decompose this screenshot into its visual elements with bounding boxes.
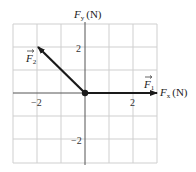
x-axis-label: Fx(N) [159, 86, 188, 100]
x-tick-2: 2 [130, 97, 135, 108]
origin-dot [82, 90, 88, 96]
y-axis-label: Fy(N) [73, 8, 102, 22]
f2-label: F2 [25, 50, 37, 67]
x-tick-neg2: −2 [31, 97, 42, 108]
force-diagram: Fy(N) Fx(N) −2 2 2 −2 F1 F2 [0, 0, 196, 172]
y-tick-neg2: −2 [71, 135, 82, 146]
svg-text:F2: F2 [25, 52, 37, 66]
svg-text:F1: F1 [143, 78, 155, 92]
f1-label: F1 [143, 76, 155, 93]
y-tick-2: 2 [76, 43, 81, 54]
